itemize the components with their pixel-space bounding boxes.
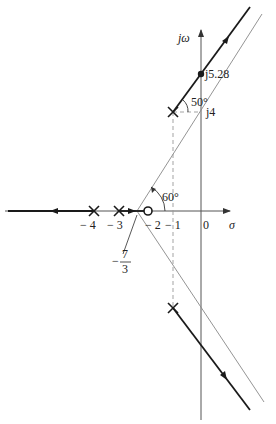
zero-marker: [144, 207, 152, 215]
crossing-label: j5.28: [204, 67, 229, 81]
imag-axis-label: jω: [176, 31, 190, 45]
asymptote-upper: [137, 14, 262, 211]
tick-label: − 2: [145, 218, 161, 232]
departure-angle-label: 50°: [191, 95, 208, 109]
root-locus-diagram: jω σ 0 − 4 − 3 − 2 − 1 j5.28 j4 50° 60° …: [0, 0, 276, 424]
locus-upper-branch: [173, 7, 250, 112]
locus-arrow-mid: [128, 208, 136, 214]
jw-crossing-point: [198, 71, 204, 77]
asymptote-angle-label: 60°: [162, 190, 179, 204]
breakaway-sign: −: [112, 254, 119, 268]
real-axis-label: σ: [229, 218, 236, 232]
tick-label: − 4: [80, 218, 96, 232]
locus-arrow-left: [50, 208, 58, 214]
tick-label: − 1: [165, 218, 181, 232]
breakaway-numerator: 7: [122, 247, 128, 261]
angle-arc-50: [183, 100, 188, 112]
origin-label: 0: [203, 218, 209, 232]
tick-label: − 3: [107, 218, 123, 232]
breakaway-denominator: 3: [122, 262, 128, 276]
